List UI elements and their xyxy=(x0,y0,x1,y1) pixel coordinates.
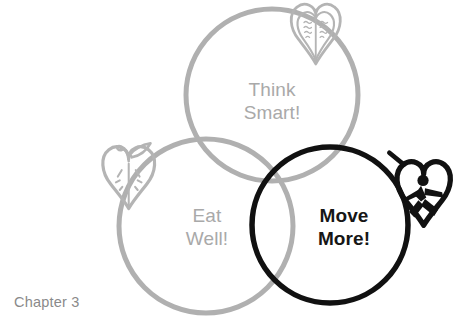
apple-heart-icon xyxy=(103,143,155,208)
label-think-smart: Think Smart! xyxy=(244,79,301,123)
diagram-canvas: Think Smart! Eat Well! Move More! Chapte… xyxy=(0,0,465,330)
label-eat-well: Eat Well! xyxy=(186,205,228,249)
runner-heart-icon xyxy=(389,153,450,226)
chapter-caption: Chapter 3 xyxy=(14,294,79,310)
label-move-more-line1: Move xyxy=(320,205,369,226)
label-think-smart-line1: Think xyxy=(249,79,296,100)
venn-diagram-svg: Think Smart! Eat Well! Move More! Chapte… xyxy=(0,0,465,330)
label-think-smart-line2: Smart! xyxy=(244,102,301,123)
label-eat-well-line1: Eat xyxy=(193,205,222,226)
label-move-more-line2: More! xyxy=(318,228,370,249)
label-eat-well-line2: Well! xyxy=(186,228,228,249)
label-move-more: Move More! xyxy=(318,205,370,249)
circle-eat-well[interactable] xyxy=(119,139,293,313)
